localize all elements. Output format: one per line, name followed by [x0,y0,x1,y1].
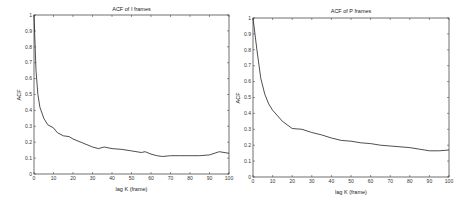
y-tick-label: 0.9 [244,31,251,37]
y-tick-label: 0.8 [25,44,32,50]
x-axis-ticks: 0102030405060708090100 [33,15,234,181]
y-tick-label: 0.7 [25,59,32,65]
y-axis-ticks: 00.10.20.30.40.50.60.70.80.91 [25,12,229,177]
x-axis-label: lag K (frame) [335,189,367,195]
x-tick-label: 0 [33,175,36,181]
y-tick-label: 1 [29,12,32,18]
x-tick-label: 30 [90,175,96,181]
x-tick-label: 80 [407,178,413,184]
x-tick-label: 30 [309,178,315,184]
y-tick-label: 0 [248,174,251,180]
figure-canvas: ACF of I frames 0102030405060708090100 0… [0,0,475,201]
x-tick-label: 0 [252,178,255,184]
y-tick-label: 0 [29,171,32,177]
x-tick-label: 50 [129,175,135,181]
x-tick-label: 50 [348,178,354,184]
x-tick-label: 10 [51,175,57,181]
y-tick-label: 0.2 [244,142,251,148]
y-tick-label: 0.4 [25,107,32,113]
acf-line [253,18,449,151]
y-tick-label: 0.3 [244,126,251,132]
y-tick-label: 0.9 [25,28,32,34]
x-tick-label: 90 [427,178,433,184]
y-tick-label: 0.4 [244,110,251,116]
y-tick-label: 0.2 [25,139,32,145]
x-tick-label: 20 [70,175,76,181]
chart-acf-p-frames: ACF of P frames 0102030405060708090100 0… [235,8,453,195]
y-tick-label: 1 [248,15,251,21]
y-tick-label: 0.5 [244,94,251,100]
x-tick-label: 60 [148,175,154,181]
x-tick-label: 40 [109,175,115,181]
x-axis-label: lag K (frame) [116,186,148,192]
x-tick-label: 70 [168,175,174,181]
x-tick-label: 60 [368,178,374,184]
x-tick-label: 70 [387,178,393,184]
y-tick-label: 0.1 [244,158,251,164]
y-axis-label: ACF [235,92,241,104]
y-axis-label: ACF [16,89,22,101]
y-tick-label: 0.1 [25,155,32,161]
x-tick-label: 100 [445,178,454,184]
chart-title: ACF of P frames [331,8,372,14]
y-axis-ticks: 00.10.20.30.40.50.60.70.80.91 [244,15,449,180]
y-tick-label: 0.3 [25,123,32,129]
x-tick-label: 80 [187,175,193,181]
y-tick-label: 0.8 [244,47,251,53]
x-tick-label: 20 [289,178,295,184]
y-tick-label: 0.7 [244,62,251,68]
x-tick-label: 90 [207,175,213,181]
x-axis-ticks: 0102030405060708090100 [252,18,454,184]
x-tick-label: 10 [270,178,276,184]
y-tick-label: 0.5 [25,91,32,97]
y-tick-label: 0.6 [244,78,251,84]
plot-area [34,15,229,174]
chart-title: ACF of I frames [112,6,151,12]
x-tick-label: 100 [225,175,234,181]
plot-area [253,18,449,177]
chart-acf-i-frames: ACF of I frames 0102030405060708090100 0… [16,6,233,192]
y-tick-label: 0.6 [25,75,32,81]
acf-line [34,15,229,157]
x-tick-label: 40 [329,178,335,184]
